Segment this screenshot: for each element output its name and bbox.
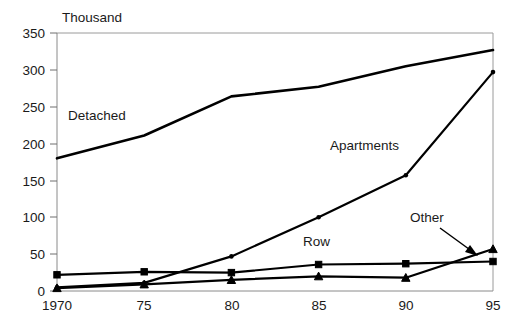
y-tick-label-300: 300 <box>22 63 45 78</box>
data-point-row-75 <box>141 269 147 275</box>
series-label-detached: Detached <box>68 108 126 123</box>
arrow-head-icon <box>465 245 478 256</box>
series-label-other: Other <box>410 210 444 225</box>
series-row <box>54 258 496 278</box>
x-tick-label-85: 85 <box>311 298 326 313</box>
y-tick-label-250: 250 <box>22 100 45 115</box>
y-tick-labels: 350 300 250 200 150 100 50 0 <box>22 26 45 299</box>
other-callout-arrow <box>440 228 478 256</box>
y-axis-unit-label: Thousand <box>62 10 122 25</box>
line-chart: 350 300 250 200 150 100 50 0 Thousand 19… <box>0 0 520 332</box>
series-detached <box>57 50 493 158</box>
x-tick-label-90: 90 <box>398 298 413 313</box>
y-tick-label-200: 200 <box>22 137 45 152</box>
series-line-apartments <box>57 72 493 287</box>
data-point-row-85 <box>315 261 321 267</box>
x-tick-label-75: 75 <box>136 298 151 313</box>
data-point-row-95 <box>490 258 496 264</box>
y-tick-label-100: 100 <box>22 210 45 225</box>
y-tick-label-350: 350 <box>22 26 45 41</box>
series-label-apartments: Apartments <box>330 138 399 153</box>
x-tick-label-95: 95 <box>485 298 500 313</box>
series-apartments <box>55 70 496 290</box>
series-layer <box>53 50 497 292</box>
y-tick-label-150: 150 <box>22 174 45 189</box>
plot-frame <box>57 33 493 291</box>
data-point-apartments-80 <box>229 254 234 259</box>
data-point-row-1970 <box>54 272 60 278</box>
data-point-apartments-85 <box>316 215 321 220</box>
y-tick-label-50: 50 <box>30 247 45 262</box>
data-point-apartments-90 <box>404 173 409 178</box>
x-tick-label-1970: 1970 <box>42 298 72 313</box>
y-tick-marks <box>50 33 57 291</box>
y-tick-label-0: 0 <box>37 284 45 299</box>
x-tick-labels: 1970 75 80 85 90 95 <box>42 298 501 313</box>
data-point-row-90 <box>403 261 409 267</box>
data-point-apartments-95 <box>491 70 496 75</box>
series-label-row: Row <box>303 234 330 249</box>
x-tick-label-80: 80 <box>224 298 239 313</box>
series-line-detached <box>57 50 493 158</box>
chart-container: 350 300 250 200 150 100 50 0 Thousand 19… <box>0 0 520 332</box>
series-line-row <box>57 262 493 275</box>
data-point-other-95 <box>489 245 497 253</box>
